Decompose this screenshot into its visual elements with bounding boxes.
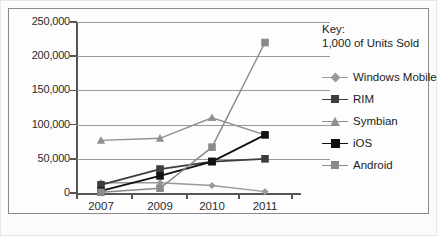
legend-marker [322, 137, 348, 149]
legend-item-symbian[interactable]: Symbian [322, 114, 398, 128]
legend-title: Key: 1,000 of Units Sold [322, 22, 434, 50]
legend-item-label: iOS [348, 137, 372, 149]
data-point-marker [261, 188, 268, 195]
data-point-marker [261, 155, 269, 163]
legend-item-ios[interactable]: iOS [322, 136, 372, 150]
data-point-marker [261, 39, 269, 47]
data-point-marker [156, 165, 164, 173]
data-point-marker [156, 184, 164, 192]
legend-marker-glyph [331, 95, 339, 103]
chart-legend: Key: 1,000 of Units Sold Windows MobileR… [322, 22, 434, 50]
data-point-marker [208, 143, 216, 151]
series-ios [97, 131, 269, 195]
data-point-marker [208, 114, 216, 122]
legend-item-rim[interactable]: RIM [322, 92, 374, 106]
data-point-marker [261, 131, 269, 139]
legend-marker [322, 159, 348, 171]
legend-marker-glyph [330, 117, 340, 126]
legend-marker [322, 93, 348, 105]
series-line [101, 118, 265, 141]
data-point-marker [208, 158, 216, 166]
series-line [101, 43, 265, 193]
legend-item-android[interactable]: Android [322, 158, 393, 172]
data-point-marker [156, 172, 164, 180]
legend-marker-glyph [331, 161, 339, 169]
data-point-marker [97, 189, 105, 197]
series-symbian [97, 114, 269, 144]
legend-marker [322, 71, 348, 83]
legend-marker-glyph [330, 72, 340, 82]
legend-item-label: Symbian [348, 115, 398, 127]
series-line [101, 159, 265, 185]
series-windows-mobile [97, 179, 268, 195]
data-point-marker [208, 182, 215, 189]
legend-item-label: RIM [348, 93, 374, 105]
legend-item-label: Windows Mobile [348, 71, 437, 83]
chart-container: 050,000100,000150,000200,000250,000 2007… [0, 0, 437, 236]
legend-marker [322, 115, 348, 127]
series-android [97, 39, 269, 196]
legend-item-label: Android [348, 159, 393, 171]
legend-marker-glyph [331, 139, 340, 148]
legend-item-windows-mobile[interactable]: Windows Mobile [322, 70, 437, 84]
